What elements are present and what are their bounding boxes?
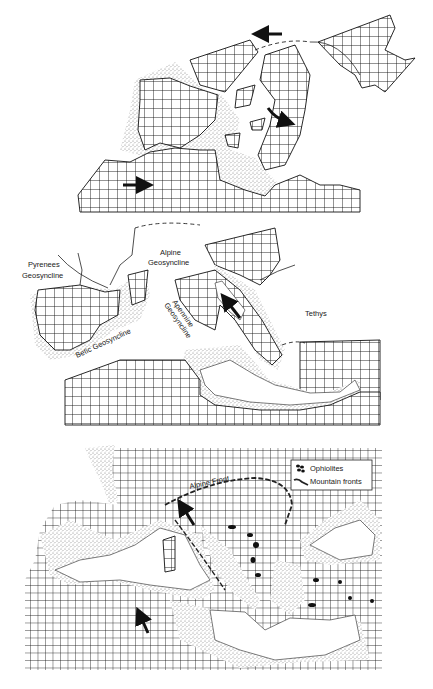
panel-middle-map: Pyrenees Geosyncline Alpine Geosyncline … <box>22 223 380 425</box>
island <box>235 85 255 108</box>
label-alpine-line1: Alpine <box>160 248 181 257</box>
europe-landmass <box>190 40 258 92</box>
label-pyrenees-line1: Pyrenees <box>28 260 60 269</box>
label-tethys: Tethys <box>305 309 327 318</box>
legend: Ophiolites Mountain fronts <box>291 460 372 490</box>
legend-mountain-fronts-label: Mountain fronts <box>310 477 362 486</box>
island-corsica-sardinia <box>163 536 175 572</box>
legend-ophiolites-label: Ophiolites <box>310 464 344 473</box>
coastline <box>58 255 108 288</box>
island-corsica <box>128 270 148 305</box>
eastern-europe-landmass <box>318 15 415 92</box>
suture-dashed-line <box>135 223 200 228</box>
suture-dashed-line <box>255 41 310 50</box>
adriatic-landmass <box>258 45 310 170</box>
panel-bottom-map: Alpine Front Ophiolites Mountain fronts <box>25 445 382 670</box>
coastline <box>78 253 82 285</box>
paleogeographic-figure: Pyrenees Geosyncline Alpine Geosyncline … <box>0 0 433 689</box>
label-alpine-line2: Geosyncline <box>148 258 189 267</box>
island <box>250 118 265 130</box>
label-pyrenees-line2: Geosyncline <box>22 271 63 280</box>
panel-top-map <box>78 15 415 212</box>
